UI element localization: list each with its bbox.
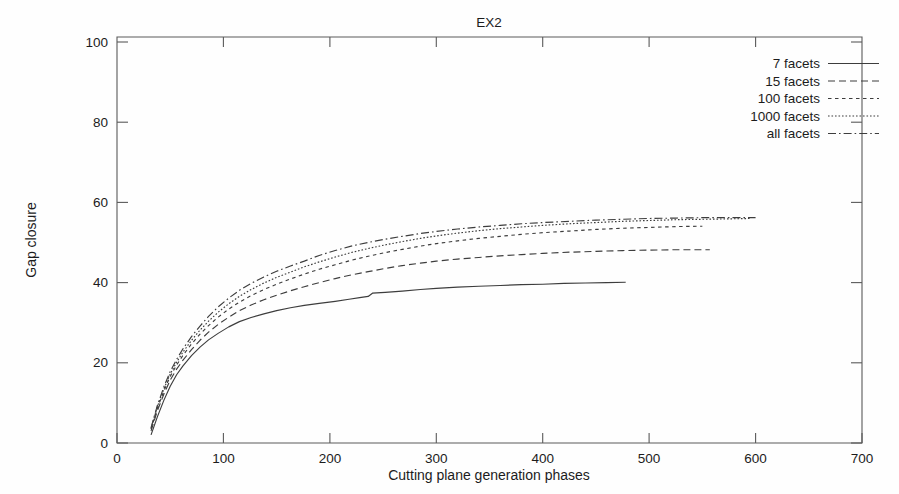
series-line-7-facets	[151, 282, 626, 435]
x-tick-label: 400	[531, 451, 554, 466]
chart-legend: 7 facets 15 facets 100 facets 1000 facet…	[750, 56, 879, 141]
y-tick-label: 40	[93, 275, 108, 290]
legend-label-100-facets: 100 facets	[758, 91, 821, 106]
series-group	[151, 218, 756, 435]
x-tick-label: 100	[212, 451, 235, 466]
series-line-all-facets	[151, 218, 756, 428]
x-tick-label: 0	[113, 451, 121, 466]
y-tick-label: 80	[93, 115, 108, 130]
series-line-100-facets	[151, 226, 702, 429]
y-axis-title: Gap closure	[23, 202, 39, 278]
series-line-15-facets	[151, 250, 710, 431]
line-chart: EX2 0 20 40 60 80 100	[0, 0, 899, 494]
legend-label-7-facets: 7 facets	[773, 56, 821, 71]
y-axis-tick-labels: 0 20 40 60 80 100	[85, 35, 108, 451]
legend-label-15-facets: 15 facets	[765, 74, 820, 89]
x-tick-label: 700	[851, 451, 874, 466]
y-tick-label: 0	[100, 436, 108, 451]
x-axis-tick-labels: 0 100 200 300 400 500 600 700	[113, 451, 873, 466]
y-tick-label: 100	[85, 35, 108, 50]
x-axis-ticks	[117, 37, 862, 443]
chart-figure: EX2 0 20 40 60 80 100	[0, 0, 899, 494]
y-tick-label: 60	[93, 195, 108, 210]
series-line-1000-facets	[151, 218, 751, 428]
x-tick-label: 200	[319, 451, 342, 466]
x-tick-label: 500	[638, 451, 661, 466]
plot-frame	[117, 37, 862, 443]
legend-label-all-facets: all facets	[767, 126, 821, 141]
y-axis-ticks	[117, 42, 862, 443]
x-tick-label: 600	[744, 451, 767, 466]
x-tick-label: 300	[425, 451, 448, 466]
legend-label-1000-facets: 1000 facets	[750, 109, 820, 124]
chart-title: EX2	[476, 15, 502, 30]
x-axis-title: Cutting plane generation phases	[388, 467, 590, 483]
y-tick-label: 20	[93, 355, 108, 370]
